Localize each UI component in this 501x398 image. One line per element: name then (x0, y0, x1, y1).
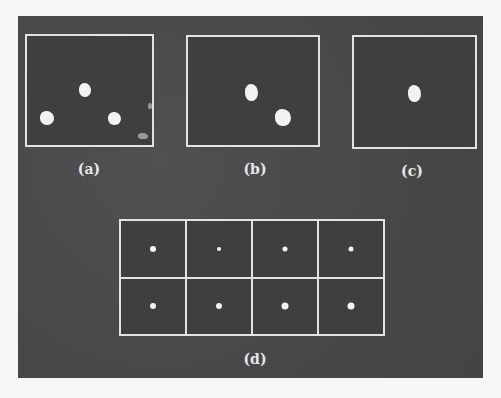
grid-cell (318, 220, 384, 278)
panel-d-grid (119, 219, 385, 336)
bright-blob (108, 112, 121, 125)
bright-blob (408, 85, 421, 102)
panel-c-label: (c) (401, 163, 423, 179)
grid-cell (186, 220, 252, 278)
grid-cell (318, 278, 384, 336)
grid-cell (252, 278, 318, 336)
grid-cell (186, 278, 252, 336)
bright-blob (148, 103, 152, 109)
bright-blob (40, 111, 54, 125)
panel-d-label: (d) (243, 351, 266, 367)
spot-dot (150, 303, 156, 309)
spot-dot (348, 303, 355, 310)
spot-dot (349, 246, 354, 251)
panel-b-label: (b) (243, 161, 266, 177)
spot-dot (282, 303, 289, 310)
spot-dot (150, 246, 156, 252)
bright-blob (79, 83, 91, 97)
bright-blob (138, 133, 148, 139)
grid-cell (120, 220, 186, 278)
spot-dot (217, 247, 221, 251)
spot-dot (283, 246, 288, 251)
grid-cell (120, 278, 186, 336)
bright-blob (245, 84, 258, 101)
spot-dot (216, 303, 222, 309)
bright-blob (275, 109, 291, 126)
grid-cell (252, 220, 318, 278)
panel-a-label: (a) (78, 161, 100, 177)
